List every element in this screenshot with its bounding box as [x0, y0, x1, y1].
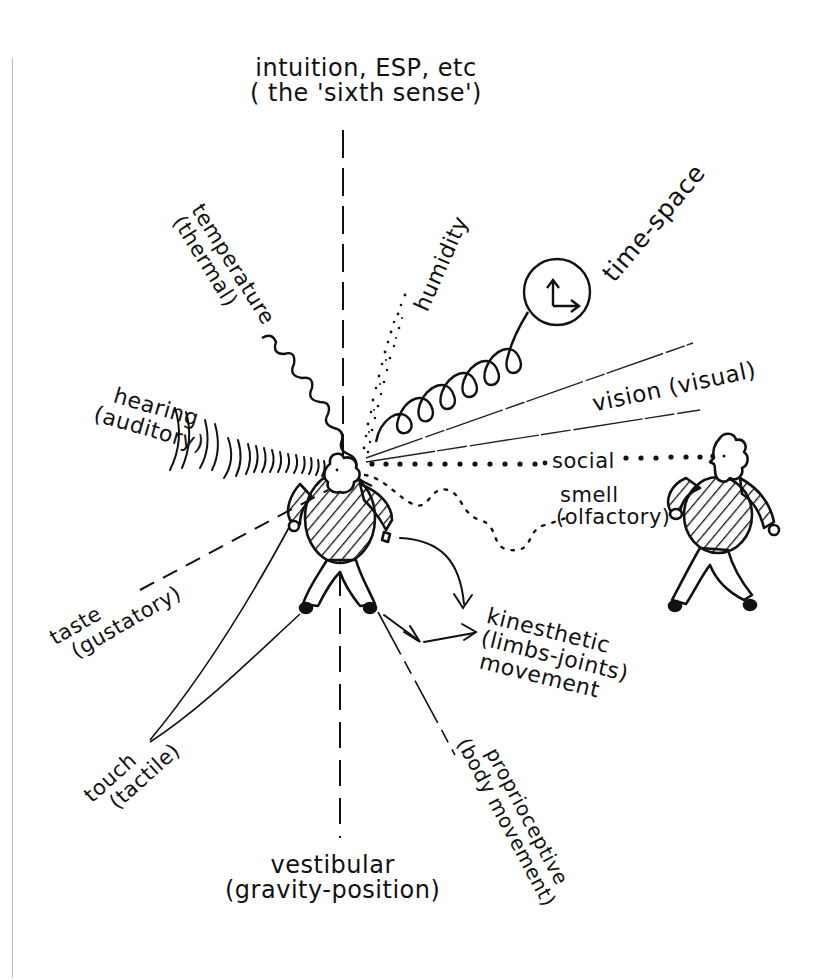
label-smell: smell (olfactory)	[556, 484, 671, 528]
other-person-figure	[668, 434, 779, 611]
senses-diagram	[0, 0, 821, 980]
label-intuition: intuition, ESP, etc ( the 'sixth sense')	[250, 56, 482, 106]
label-intuition-line2: ( the 'sixth sense')	[250, 81, 482, 106]
label-vestibular-line2: (gravity-position)	[225, 878, 440, 903]
label-vestibular: vestibular (gravity-position)	[225, 853, 440, 903]
touch-connector	[150, 522, 300, 742]
time-space-spiral-connector	[376, 259, 590, 442]
humidity-stipple-connector	[363, 294, 407, 454]
label-social-line1: social	[552, 450, 615, 472]
label-intuition-line1: intuition, ESP, etc	[250, 56, 482, 81]
smell-dotted-connector	[365, 475, 566, 550]
proprioceptive-connector	[378, 612, 455, 755]
label-smell-line2: (olfactory)	[556, 506, 671, 528]
label-social: social	[552, 450, 615, 472]
label-vestibular-line1: vestibular	[225, 853, 440, 878]
kinesthetic-arrows-connector	[384, 538, 476, 642]
social-dotted-connector	[369, 453, 715, 466]
label-smell-line1: smell	[556, 484, 671, 506]
